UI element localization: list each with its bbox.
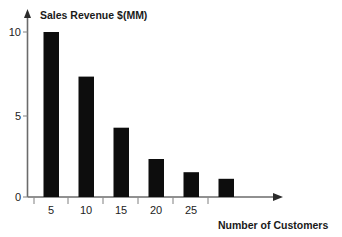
bar-chart-screenshot: 10 5 0 5 10 15 20 25 Sales Revenue $(MM)… [0, 0, 342, 237]
x-axis-title: Number of Customers [218, 219, 328, 231]
bar-3 [114, 128, 130, 197]
x-axis-arrow-icon [273, 193, 283, 201]
chart-title: Sales Revenue $(MM) [40, 9, 147, 21]
bar-4 [149, 159, 165, 197]
x-tick-label-10: 10 [80, 204, 92, 216]
x-tick-label-20: 20 [150, 204, 162, 216]
bar-5 [184, 172, 200, 197]
y-tick-label-5: 5 [15, 110, 21, 122]
bar-1 [44, 32, 60, 197]
bar-2 [79, 77, 95, 197]
y-axis-arrow-icon [24, 9, 31, 18]
x-tick-label-15: 15 [115, 204, 127, 216]
y-tick-label-10: 10 [9, 26, 21, 38]
y-tick-label-0: 0 [15, 191, 21, 203]
x-tick-label-25: 25 [185, 204, 197, 216]
x-tick-label-5: 5 [48, 204, 54, 216]
chart-canvas: 10 5 0 5 10 15 20 25 Sales Revenue $(MM)… [0, 0, 342, 237]
bar-6 [219, 179, 235, 197]
